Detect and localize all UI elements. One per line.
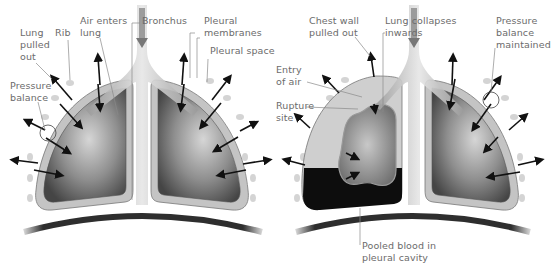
- pneumothorax-diagram: Lung pulled out Rib Air enters lung Bron…: [0, 0, 552, 269]
- left-lung-system: [14, 5, 268, 232]
- label-chest-wall-pulled-out: Chest wall pulled out: [309, 15, 359, 39]
- label-pressure-balance: Pressure balance: [10, 80, 51, 104]
- label-pressure-balance-maintained: Pressure balance maintained: [496, 15, 551, 51]
- label-entry-of-air: Entry of air: [276, 64, 302, 88]
- label-pleural-space: Pleural space: [210, 45, 275, 57]
- label-lung-collapses-inwards: Lung collapses inwards: [385, 15, 457, 39]
- diaphragm-left: [24, 216, 262, 232]
- pressure-maintained-circle: [483, 92, 499, 108]
- label-pleural-membranes: Pleural membranes: [204, 15, 262, 39]
- label-rib: Rib: [55, 27, 71, 39]
- diagram-artwork: [0, 0, 552, 269]
- label-pooled-blood: Pooled blood in pleural cavity: [362, 240, 436, 264]
- label-lung-pulled-out: Lung pulled out: [20, 27, 50, 63]
- label-rupture-site: Rupture site: [276, 100, 314, 124]
- label-bronchus: Bronchus: [142, 15, 187, 27]
- label-air-enters-lung: Air enters lung: [80, 15, 127, 39]
- diaphragm-right: [296, 216, 530, 232]
